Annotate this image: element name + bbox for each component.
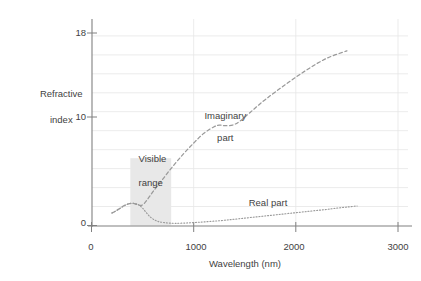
x-tick-label-0: 0 (81, 241, 101, 252)
imaginary-part-label: Imaginary part (190, 99, 250, 154)
y-tick-label-0: 0 (64, 217, 86, 228)
visible-range-label-line2: range (139, 177, 163, 188)
imaginary-part-label-line1: Imaginary (204, 110, 246, 121)
x-tick-label-3000: 3000 (378, 241, 418, 252)
visible-range-label: Visible range (128, 141, 174, 201)
x-axis-title: Wavelength (nm) (150, 258, 340, 269)
x-tick-label-2000: 2000 (274, 241, 314, 252)
x-tick-label-1000: 1000 (176, 241, 216, 252)
y-tick-label-18: 18 (64, 27, 86, 38)
y-tick-label-10: 10 (64, 111, 86, 122)
visible-range-label-line1: Visible (139, 153, 167, 164)
y-axis-title-line1: Refractive (40, 88, 83, 99)
y-axis-title: Refractive index (20, 74, 92, 139)
chart-figure: Refractive index 18 10 0 0 1000 2000 300… (0, 0, 421, 281)
imaginary-part-label-line2: part (217, 132, 233, 143)
real-part-label: Real part (240, 197, 296, 208)
